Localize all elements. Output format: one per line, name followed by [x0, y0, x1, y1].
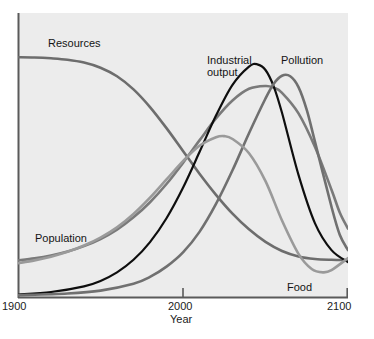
chart-plot-svg [0, 0, 374, 339]
series-label-industrial-line2: output [207, 66, 238, 78]
series-label-pollution: Pollution [281, 55, 323, 67]
x-axis-tick-label-2100: 2100 [327, 300, 351, 312]
series-label-industrial-line1: Industrial [207, 54, 252, 66]
chart-container: 1900 2000 2100 Year Resources Industrial… [0, 0, 374, 339]
x-axis-title: Year [170, 313, 192, 325]
x-axis-tick-label-2000: 2000 [168, 300, 192, 312]
series-label-industrial-output: Industrialoutput [207, 55, 252, 78]
series-label-food: Food [287, 282, 312, 294]
series-label-population: Population [35, 233, 87, 245]
x-axis-tick-label-1900: 1900 [2, 300, 26, 312]
series-label-resources: Resources [48, 38, 101, 50]
